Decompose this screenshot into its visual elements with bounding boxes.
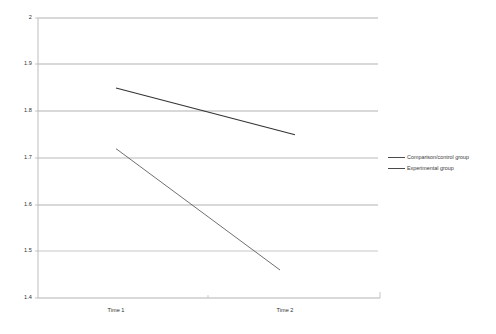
ytick-label-2: 2: [8, 15, 32, 21]
ytick-label-1-5: 1.5: [8, 248, 32, 254]
legend-label-comparison-control-group: Comparison/control group: [407, 155, 469, 160]
legend-item-comparison-control-group: Comparison/control group: [388, 152, 494, 163]
xtick-label-time-2: Time 2: [265, 308, 305, 314]
legend-line-swatch-icon: [388, 157, 405, 158]
legend-label-experimental-group: Experimental group: [407, 166, 454, 171]
legend-item-experimental-group: Experimental group: [388, 163, 494, 174]
chart-legend: Comparison/control group Experimental gr…: [388, 152, 494, 174]
ytick-label-1-4: 1.4: [8, 295, 32, 301]
ytick-label-1-6: 1.6: [8, 202, 32, 208]
gridlines: [38, 18, 378, 251]
legend-line-swatch-icon: [388, 168, 405, 169]
line-chart: 2 1.9 1.8 1.7 1.6 1.5 1.4 Time 1 Time 2 …: [0, 0, 496, 334]
series-line-experimental-group: [116, 149, 280, 270]
ytick-label-1-8: 1.8: [8, 108, 32, 114]
xtick-label-time-1: Time 1: [96, 308, 136, 314]
ytick-label-1-7: 1.7: [8, 155, 32, 161]
ytick-label-1-9: 1.9: [8, 61, 32, 67]
